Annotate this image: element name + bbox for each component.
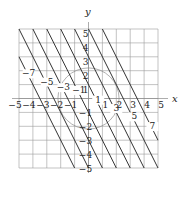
level-label: −3 <box>57 82 71 92</box>
x-tick-label: 1 <box>103 100 109 110</box>
contour-plot: −7−5−3−11357 −5−4−3−2−11234554321−1−2−3−… <box>0 0 182 200</box>
level-label: −5 <box>40 77 54 87</box>
x-tick-label: −1 <box>64 100 77 110</box>
level-label: 7 <box>150 121 156 131</box>
y-tick-label: −2 <box>79 122 92 132</box>
y-tick-label: 5 <box>83 29 89 39</box>
x-tick-label: 3 <box>130 100 136 110</box>
x-tick-label: 2 <box>116 100 122 110</box>
x-tick-label: −5 <box>8 100 22 110</box>
y-tick-label: −1 <box>79 108 92 118</box>
x-tick-label: −4 <box>22 100 36 110</box>
y-tick-label: 2 <box>83 71 89 81</box>
x-axis-label: x <box>172 93 178 104</box>
y-tick-label: −5 <box>79 164 93 174</box>
y-tick-label: 3 <box>83 57 89 67</box>
y-tick-label: 1 <box>83 85 89 95</box>
level-label: 1 <box>95 95 101 105</box>
level-label: −7 <box>22 68 36 78</box>
x-tick-label: −2 <box>50 100 63 110</box>
x-tick-label: −3 <box>36 100 50 110</box>
x-tick-label: 5 <box>158 100 164 110</box>
level-label: 5 <box>132 111 138 121</box>
y-tick-label: −4 <box>79 150 93 160</box>
tick-labels: −5−4−3−2−11234554321−1−2−3−4−5 <box>8 29 164 174</box>
y-tick-label: 4 <box>83 43 89 53</box>
y-axis-label: y <box>84 6 91 17</box>
y-tick-label: −3 <box>79 136 93 146</box>
contour-figure: −7−5−3−11357 −5−4−3−2−11234554321−1−2−3−… <box>0 0 182 200</box>
x-tick-label: 4 <box>144 100 150 110</box>
